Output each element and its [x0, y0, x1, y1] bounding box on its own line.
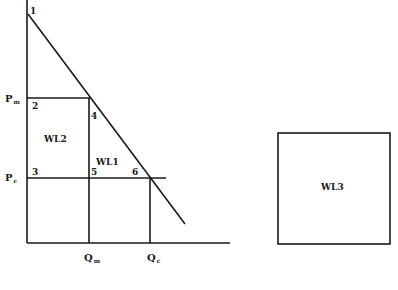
qm-label: Qm [84, 252, 101, 264]
point-2-label: 2 [32, 101, 38, 111]
wl3-label: WL3 [320, 182, 344, 192]
pc-label: Pc [5, 172, 18, 184]
wl2-label: WL2 [43, 134, 67, 144]
welfare-loss-diagram: 1 2 4 3 5 6 WL2 WL1 WL3 Pm Pc Qm Qc [0, 0, 398, 290]
point-5-label: 5 [91, 167, 97, 177]
demand-curve [28, 14, 185, 224]
point-4-label: 4 [91, 111, 97, 121]
point-1-label: 1 [30, 6, 36, 16]
qc-label: Qc [147, 252, 161, 264]
pm-label: Pm [5, 93, 21, 105]
wl1-label: WL1 [95, 157, 119, 167]
point-6-label: 6 [132, 167, 138, 177]
point-3-label: 3 [32, 167, 38, 177]
